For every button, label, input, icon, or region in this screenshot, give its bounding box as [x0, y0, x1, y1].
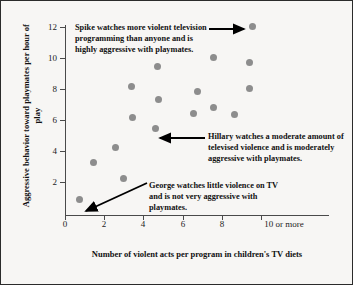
annotation-spike: Spike watches more violent television pr… — [75, 23, 207, 55]
data-point-george — [76, 196, 83, 203]
data-point — [128, 83, 135, 90]
y-tick-6 — [60, 120, 66, 121]
scatter-plot: 12 10 8 6 4 2 0 2 4 6 8 10 or more Aggre… — [1, 1, 352, 284]
annotation-george: George watches little violence on TV and… — [149, 181, 289, 213]
data-point — [190, 110, 197, 117]
data-point — [210, 54, 217, 61]
data-point — [194, 88, 201, 95]
data-point — [90, 159, 97, 166]
x-tick-label-2: 2 — [102, 220, 107, 229]
x-tick-10 — [261, 215, 262, 220]
data-point — [120, 175, 127, 182]
data-point — [155, 96, 162, 103]
data-point — [129, 114, 136, 121]
x-tick-label-0: 0 — [63, 220, 68, 229]
x-axis-title: Number of violent acts per program in ch… — [65, 249, 329, 260]
y-tick-4 — [60, 151, 66, 152]
y-tick-8 — [60, 89, 66, 90]
y-tick-10 — [60, 58, 66, 59]
data-point-spike — [249, 23, 256, 30]
data-point-hillary — [152, 125, 159, 132]
data-point — [154, 63, 161, 70]
data-point — [231, 111, 238, 118]
x-tick-label-8: 8 — [220, 220, 225, 229]
data-point — [246, 85, 253, 92]
annotation-hillary: Hillary watches a moderate amount of tel… — [208, 132, 344, 164]
x-tick-label-6: 6 — [181, 220, 186, 229]
y-tick-12 — [60, 27, 66, 28]
data-point — [210, 104, 217, 111]
data-point — [112, 144, 119, 151]
y-tick-2 — [60, 182, 66, 183]
arrow-to-george — [86, 183, 147, 211]
x-tick-label-10: 10 or more — [264, 220, 304, 229]
x-tick-label-4: 4 — [141, 220, 146, 229]
data-point — [246, 59, 253, 66]
figure-container: 12 10 8 6 4 2 0 2 4 6 8 10 or more Aggre… — [0, 0, 353, 285]
y-axis-title: Aggressive behavior toward playmates per… — [21, 23, 42, 209]
